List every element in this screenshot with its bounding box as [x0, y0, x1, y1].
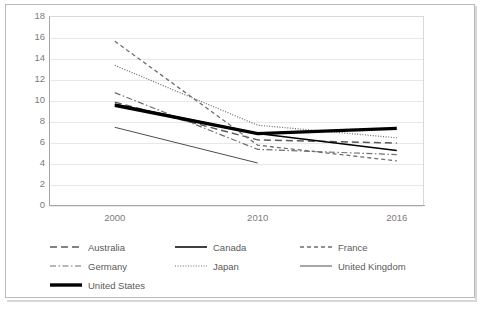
- legend-item-australia[interactable]: Australia: [49, 238, 125, 256]
- legend-label: United States: [88, 280, 145, 291]
- series-line-japan: [115, 65, 397, 137]
- legend-item-united-kingdom[interactable]: United Kingdom: [299, 257, 406, 275]
- legend-item-canada[interactable]: Canada: [174, 238, 246, 256]
- legend-row: United States: [49, 276, 439, 294]
- gridline: [50, 206, 423, 207]
- legend-row: GermanyJapanUnited Kingdom: [49, 257, 439, 275]
- y-axis-tick-label: 0: [9, 200, 45, 210]
- legend-swatch-australia: [49, 241, 83, 253]
- series-lines-layer: [49, 16, 425, 206]
- y-axis-tick-label: 8: [9, 116, 45, 126]
- chart-legend: AustraliaCanadaFranceGermanyJapanUnited …: [49, 238, 439, 294]
- legend-swatch-japan: [174, 260, 208, 272]
- y-axis-tick-label: 4: [9, 158, 45, 168]
- y-axis-tick-label: 12: [9, 74, 45, 84]
- y-axis-tick-label: 14: [9, 53, 45, 63]
- legend-label: Canada: [213, 242, 246, 253]
- legend-swatch-united-states: [49, 279, 83, 291]
- chart-screenshot: 024681012141618 200020102016 AustraliaCa…: [0, 0, 481, 310]
- figure-shadow-bottom: [7, 300, 477, 302]
- y-axis-tick-label: 10: [9, 95, 45, 105]
- chart-figure: 024681012141618 200020102016 AustraliaCa…: [5, 4, 475, 298]
- legend-swatch-france: [299, 241, 333, 253]
- series-line-united-states: [115, 105, 397, 133]
- legend-swatch-germany: [49, 260, 83, 272]
- legend-swatch-united-kingdom: [299, 260, 333, 272]
- x-axis-tick-label: 2000: [85, 212, 145, 223]
- legend-item-japan[interactable]: Japan: [174, 257, 239, 275]
- legend-label: Australia: [88, 242, 125, 253]
- series-line-united-kingdom: [115, 127, 258, 163]
- series-line-france: [115, 41, 397, 161]
- series-line-australia: [115, 102, 397, 143]
- y-axis-tick-label: 18: [9, 11, 45, 21]
- legend-label: France: [338, 242, 368, 253]
- y-axis-tick-labels: 024681012141618: [6, 16, 45, 205]
- x-axis-tick-label: 2010: [228, 212, 288, 223]
- series-line-canada: [115, 104, 397, 150]
- legend-label: Germany: [88, 261, 127, 272]
- legend-item-france[interactable]: France: [299, 238, 368, 256]
- y-axis-tick-label: 16: [9, 32, 45, 42]
- plot-wrapper: 024681012141618 200020102016 AustraliaCa…: [6, 5, 476, 299]
- legend-item-germany[interactable]: Germany: [49, 257, 127, 275]
- x-axis-tick-label: 2016: [367, 212, 427, 223]
- legend-swatch-canada: [174, 241, 208, 253]
- legend-label: Japan: [213, 261, 239, 272]
- legend-label: United Kingdom: [338, 261, 406, 272]
- legend-item-united-states[interactable]: United States: [49, 276, 145, 294]
- legend-row: AustraliaCanadaFrance: [49, 238, 439, 256]
- y-axis-tick-label: 6: [9, 137, 45, 147]
- y-axis-tick-label: 2: [9, 179, 45, 189]
